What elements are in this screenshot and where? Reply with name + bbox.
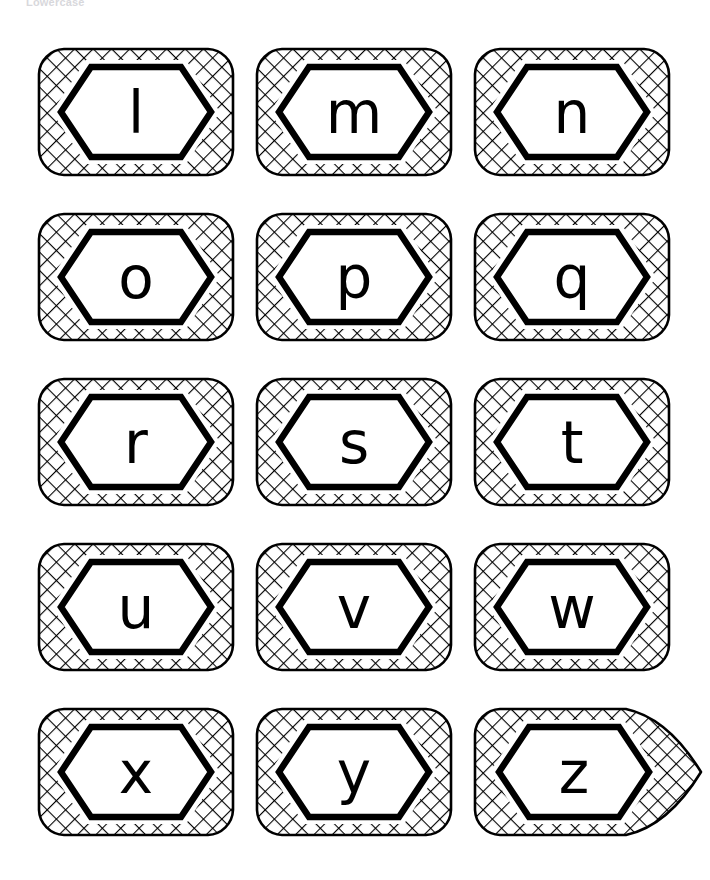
card-letter: s	[339, 409, 369, 477]
letter-card-q[interactable]: q	[474, 213, 670, 341]
letter-card-p[interactable]: p	[256, 213, 452, 341]
letter-card-m[interactable]: m	[256, 48, 452, 176]
letter-card-v[interactable]: v	[256, 543, 452, 671]
card-letter: y	[337, 739, 371, 807]
card-letter: n	[554, 79, 591, 147]
card-letter: o	[118, 244, 154, 312]
letter-card-z[interactable]: z	[474, 708, 702, 836]
card-letter: t	[561, 409, 584, 477]
card-letter: v	[337, 574, 371, 642]
letter-card-u[interactable]: u	[38, 543, 234, 671]
letter-card-s[interactable]: s	[256, 378, 452, 506]
letter-card-t[interactable]: t	[474, 378, 670, 506]
letter-card-w[interactable]: w	[474, 543, 670, 671]
letter-card-n[interactable]: n	[474, 48, 670, 176]
letter-card-r[interactable]: r	[38, 378, 234, 506]
card-letter: x	[119, 739, 153, 807]
card-letter: q	[554, 244, 591, 312]
worksheet-page: Lowercase lmnopqrstuvwxyz	[0, 0, 710, 880]
card-letter: l	[128, 79, 144, 147]
letter-card-y[interactable]: y	[256, 708, 452, 836]
card-letter: m	[326, 79, 383, 147]
card-letter: r	[124, 409, 148, 477]
card-letter: z	[559, 739, 589, 807]
card-letter: u	[118, 574, 155, 642]
card-letter: p	[336, 244, 373, 312]
letter-card-o[interactable]: o	[38, 213, 234, 341]
card-letter: w	[548, 574, 595, 642]
card-grid: lmnopqrstuvwxyz	[0, 0, 710, 880]
letter-card-x[interactable]: x	[38, 708, 234, 836]
letter-card-l[interactable]: l	[38, 48, 234, 176]
